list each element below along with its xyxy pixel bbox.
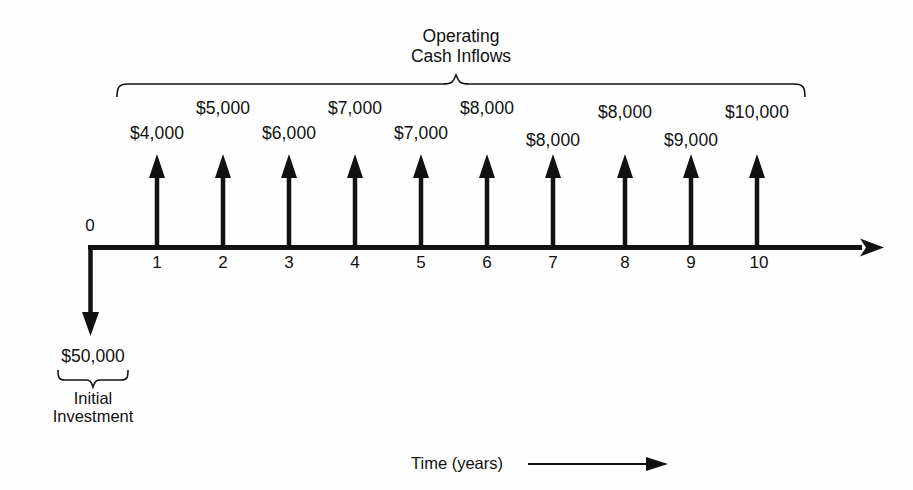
cash-inflow-arrow-year-1: [149, 154, 165, 247]
cash-inflow-label-year-5: $7,000: [394, 124, 448, 144]
axis-tick-label-8: 8: [620, 253, 629, 272]
time-axis-label: Time (years): [411, 454, 503, 472]
initial-investment-caption-line-2: Investment: [53, 407, 134, 425]
cash-inflow-arrow-year-4: [347, 154, 363, 247]
cash-inflow-label-year-2: $5,000: [196, 99, 250, 119]
initial-investment-brace: [58, 370, 128, 387]
operating-cash-inflows-title: Operating Cash Inflows: [411, 27, 511, 66]
cash-inflow-arrow-year-10: [749, 154, 765, 247]
cash-inflow-label-year-9: $9,000: [664, 131, 718, 151]
cash-inflow-arrow-year-5: [413, 154, 429, 247]
timeline-vector-layer: [0, 0, 913, 490]
axis-tick-label-7: 7: [548, 253, 557, 272]
axis-tick-label-1: 1: [152, 253, 161, 272]
cash-inflow-label-year-10: $10,000: [725, 103, 789, 123]
axis-tick-label-4: 4: [350, 253, 359, 272]
initial-investment-caption-line-1: Initial: [53, 389, 134, 407]
axis-tick-label-5: 5: [416, 253, 425, 272]
cash-inflow-arrow-year-8: [617, 154, 633, 247]
group-title-line-2: Cash Inflows: [411, 47, 511, 67]
cash-inflow-arrows: [149, 154, 765, 247]
cash-inflow-label-year-6: $8,000: [460, 99, 514, 119]
cash-inflow-label-year-3: $6,000: [262, 124, 316, 144]
axis-tick-label-9: 9: [686, 253, 695, 272]
cash-inflow-arrow-year-7: [545, 154, 561, 247]
axis-zero-label: 0: [85, 216, 94, 235]
time-label-arrow: [528, 457, 668, 471]
cash-inflow-arrow-year-6: [479, 154, 495, 247]
initial-investment-caption: Initial Investment: [53, 389, 134, 426]
cash-inflow-label-year-4: $7,000: [328, 99, 382, 119]
cash-flow-timeline-figure: Operating Cash Inflows $4,000 $5,000 $6,…: [0, 0, 913, 490]
axis-tick-label-2: 2: [218, 253, 227, 272]
initial-investment-arrow: [82, 247, 99, 336]
group-title-line-1: Operating: [411, 27, 511, 47]
cash-inflow-label-year-7: $8,000: [526, 131, 580, 151]
axis-tick-label-6: 6: [482, 253, 491, 272]
cash-inflow-label-year-1: $4,000: [130, 124, 184, 144]
cash-inflow-label-year-8: $8,000: [598, 103, 652, 123]
operating-inflows-brace: [117, 75, 805, 97]
axis-tick-label-3: 3: [284, 253, 293, 272]
cash-inflow-arrow-year-9: [683, 154, 699, 247]
axis-tick-label-10: 10: [750, 253, 769, 272]
cash-inflow-arrow-year-3: [281, 154, 297, 247]
initial-investment-amount: $50,000: [61, 347, 124, 367]
cash-inflow-arrow-year-2: [215, 154, 231, 247]
